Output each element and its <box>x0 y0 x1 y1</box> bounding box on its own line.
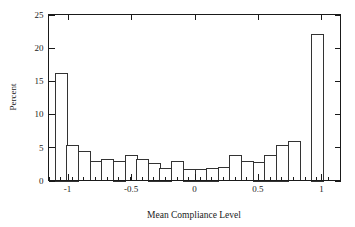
histogram-bar <box>312 35 324 182</box>
y-tick-label: 20 <box>35 43 45 53</box>
x-tick-label: 0.5 <box>252 184 264 194</box>
histogram-bar <box>114 162 126 182</box>
y-tick-label: 0 <box>39 176 44 186</box>
histogram-bar <box>149 164 161 182</box>
histogram-bar <box>207 169 219 182</box>
histogram-bar <box>56 74 68 182</box>
y-tick-label: 10 <box>35 109 45 119</box>
x-tick-label: -1 <box>64 184 72 194</box>
histogram-bar <box>254 163 266 182</box>
histogram-bar <box>184 170 196 182</box>
y-tick-label: 5 <box>39 143 44 153</box>
histogram-bar <box>196 170 208 182</box>
histogram-bar <box>79 152 91 181</box>
x-axis-title: Mean Compliance Level <box>147 210 241 220</box>
x-tick-label: 0 <box>192 184 197 194</box>
y-tick-label: 25 <box>35 10 45 20</box>
chart-background <box>0 0 355 227</box>
x-tick-label: -0.5 <box>124 184 139 194</box>
histogram-chart: -1-0.500.51 0510152025 Mean Compliance L… <box>0 0 355 227</box>
histogram-bar <box>219 168 231 181</box>
histogram-bar <box>242 162 254 181</box>
y-tick-label: 15 <box>35 76 45 86</box>
histogram-bar <box>289 142 301 181</box>
x-tick-label: 1 <box>319 184 324 194</box>
histogram-bar <box>91 162 103 181</box>
histogram-svg: -1-0.500.51 0510152025 Mean Compliance L… <box>0 0 355 227</box>
histogram-bar <box>277 146 289 182</box>
y-axis-title: Percent <box>8 83 18 110</box>
